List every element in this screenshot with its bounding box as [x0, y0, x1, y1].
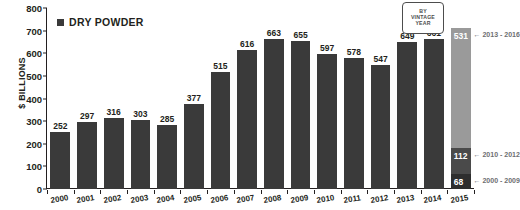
bar: 616: [237, 50, 257, 189]
bar: 285: [157, 125, 177, 189]
x-axis-tick-mark: [421, 190, 422, 194]
callout-line-3: YEAR: [415, 21, 430, 27]
x-axis-tick-mark: [47, 190, 48, 194]
bar: 578: [344, 58, 364, 189]
x-axis-tick-label: 2010: [316, 193, 335, 205]
stacked-bar-column: 531← 2013 - 2016112← 2010 - 201268← 2000…: [451, 28, 471, 189]
x-axis-tick-mark: [207, 190, 208, 194]
x-axis-tick-mark: [127, 190, 128, 194]
y-axis-tick-label: 700: [14, 25, 42, 36]
bar: 316: [104, 118, 124, 189]
y-axis-tick-mark: [43, 121, 47, 122]
y-axis-tick-label: 600: [14, 48, 42, 59]
stacked-segment-value: 531: [454, 31, 468, 41]
bar-column: 649: [397, 42, 417, 189]
x-axis-tick-mark: [367, 190, 368, 194]
bar-column: 252: [50, 132, 70, 189]
x-axis-tick-mark: [394, 190, 395, 194]
stacked-bar-segment: 112← 2010 - 2012: [451, 148, 471, 173]
x-axis-tick-label: 2013: [396, 193, 415, 205]
bar-value-label: 515: [211, 61, 231, 71]
bar-column: 661: [424, 39, 444, 189]
stacked-bar-segment: 68← 2000 - 2009: [451, 174, 471, 189]
x-axis-tick-label: 2005: [183, 193, 202, 205]
x-axis-tick-label: 2015: [450, 193, 469, 205]
y-axis-ticks: 8007006005004003002001000: [14, 8, 42, 189]
bar: 655: [291, 41, 311, 189]
y-axis-tick-label: 100: [14, 161, 42, 172]
bar-value-label: 663: [264, 28, 284, 38]
bar-column: 377: [184, 104, 204, 189]
stacked-segment-note: ← 2000 - 2009: [474, 177, 520, 184]
x-axis-tick-label: 2002: [103, 193, 122, 205]
bar: 547: [371, 65, 391, 189]
x-axis-tick-label: 2006: [210, 193, 229, 205]
x-axis-tick-mark: [100, 190, 101, 194]
bar: 252: [50, 132, 70, 189]
bar-column: 578: [344, 58, 364, 189]
y-axis-tick-label: 0: [14, 184, 42, 195]
x-axis-tick-label: 2009: [290, 193, 309, 205]
y-axis-tick-mark: [43, 189, 47, 190]
x-axis-tick-mark: [447, 190, 448, 194]
x-axis-tick-mark: [287, 190, 288, 194]
x-axis-tick-label: 2007: [236, 193, 255, 205]
bar-column: 597: [317, 54, 337, 189]
x-axis-tick-mark: [74, 190, 75, 194]
bar-value-label: 616: [237, 39, 257, 49]
y-axis-tick-mark: [43, 53, 47, 54]
bar-value-label: 252: [50, 121, 70, 131]
y-axis-tick-mark: [43, 75, 47, 76]
y-axis-tick-mark: [43, 98, 47, 99]
y-axis-tick-mark: [43, 30, 47, 31]
y-axis-tick-mark: [43, 8, 47, 9]
bar-value-label: 655: [291, 30, 311, 40]
x-axis-tick-label: 2012: [370, 193, 389, 205]
y-axis-tick-label: 200: [14, 138, 42, 149]
x-axis-tick-label: 2004: [156, 193, 175, 205]
bar-value-label: 597: [317, 43, 337, 53]
y-axis-tick-label: 800: [14, 3, 42, 14]
stacked-segment-note: ← 2010 - 2012: [474, 151, 520, 158]
bar-column: 285: [157, 125, 177, 189]
bar: 663: [264, 39, 284, 189]
stacked-segment-value: 112: [454, 151, 468, 161]
bar-column: 303: [131, 120, 151, 189]
x-axis-tick-mark: [154, 190, 155, 194]
bar-value-label: 578: [344, 47, 364, 57]
bar-column: 655: [291, 41, 311, 189]
bar-column: 316: [104, 118, 124, 189]
x-axis-tick-label: 2011: [343, 193, 362, 205]
x-axis-labels: 2000200120022003200420052006200720082009…: [47, 190, 474, 210]
bar: 597: [317, 54, 337, 189]
bar-column: 515: [211, 72, 231, 189]
x-axis-tick-mark: [314, 190, 315, 194]
bar-column: 297: [77, 122, 97, 189]
bar-column: 547: [371, 65, 391, 189]
x-axis-tick-label: 2001: [76, 193, 95, 205]
bar-value-label: 303: [131, 109, 151, 119]
x-axis-tick-mark: [180, 190, 181, 194]
y-axis-tick-mark: [43, 166, 47, 167]
plot-area: 2522973163032853775156166636555975785476…: [47, 8, 474, 189]
x-axis-tick-label: 2014: [423, 193, 442, 205]
stacked-segment-value: 68: [454, 177, 463, 187]
bar: 297: [77, 122, 97, 189]
bar-value-label: 297: [77, 111, 97, 121]
bar: 661: [424, 39, 444, 189]
y-axis-tick-mark: [43, 143, 47, 144]
x-axis-tick-mark: [341, 190, 342, 194]
bar-value-label: 547: [371, 54, 391, 64]
y-axis-tick-label: 400: [14, 93, 42, 104]
bar-value-label: 285: [157, 114, 177, 124]
x-axis-tick-mark: [261, 190, 262, 194]
x-axis-tick-mark: [474, 190, 475, 194]
by-vintage-year-callout: BY VINTAGE YEAR: [402, 2, 444, 34]
bar-value-label: 377: [184, 93, 204, 103]
x-axis-tick-mark: [234, 190, 235, 194]
bar-column: 616: [237, 50, 257, 189]
x-axis-tick-label: 2008: [263, 193, 282, 205]
bar: 303: [131, 120, 151, 189]
y-axis-tick-label: 500: [14, 70, 42, 81]
